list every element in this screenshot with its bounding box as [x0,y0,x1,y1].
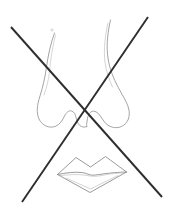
sketch-svg [0,0,175,212]
sketch-canvas: A faint light-grey pencil line drawing o… [0,0,175,212]
